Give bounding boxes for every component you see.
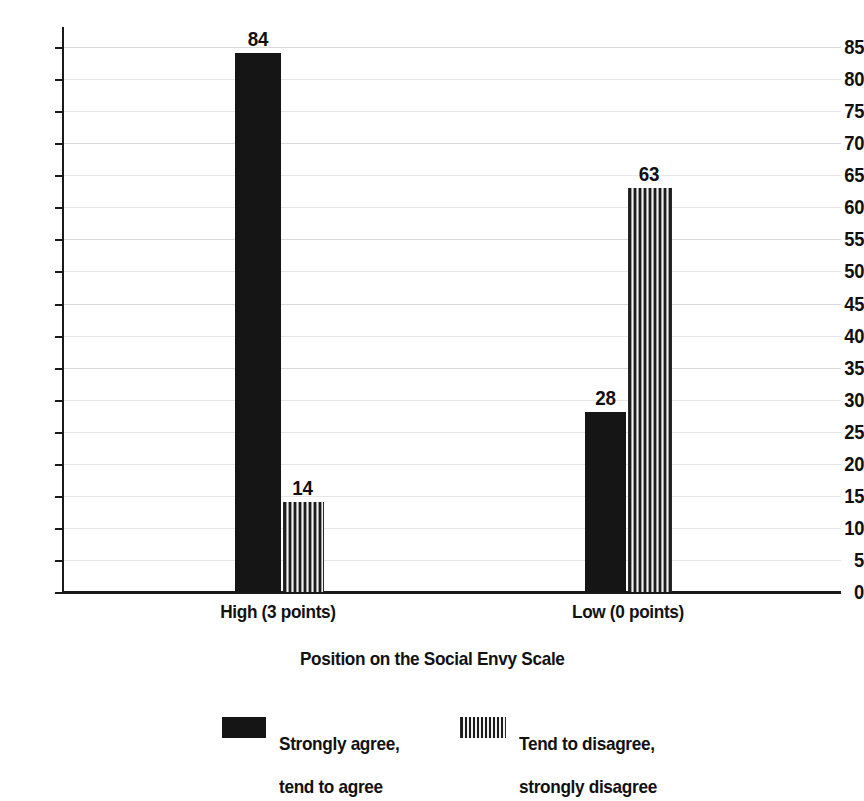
gridline-5 bbox=[64, 560, 841, 561]
y-axis-label-0: 0 bbox=[820, 581, 864, 604]
y-axis-label-20: 20 bbox=[820, 453, 864, 476]
bar-high-strongly-agree bbox=[235, 53, 281, 592]
y-tick-65 bbox=[55, 175, 64, 177]
y-tick-5 bbox=[55, 560, 64, 562]
y-tick-75 bbox=[55, 111, 64, 113]
bar-value-high-agree: 84 bbox=[236, 28, 279, 51]
gridline-15 bbox=[64, 496, 841, 497]
legend-item-agree: Strongly agree, tend to agree bbox=[222, 712, 408, 801]
y-axis-label-60: 60 bbox=[820, 196, 864, 219]
gridline-50 bbox=[64, 271, 841, 272]
y-tick-20 bbox=[55, 464, 64, 466]
x-axis-title: Position on the Social Envy Scale bbox=[0, 648, 864, 670]
y-tick-60 bbox=[55, 207, 64, 209]
y-tick-0 bbox=[55, 592, 64, 594]
legend-item-disagree: Tend to disagree, strongly disagree bbox=[460, 712, 667, 801]
gridline-85 bbox=[64, 47, 841, 48]
legend-label-disagree-line2: strongly disagree bbox=[519, 776, 657, 797]
y-axis-label-35: 35 bbox=[820, 357, 864, 380]
gridline-45 bbox=[64, 304, 841, 305]
legend-label-agree: Strongly agree, tend to agree bbox=[279, 712, 408, 801]
x-axis-category-high: High (3 points) bbox=[166, 601, 389, 623]
y-axis-label-30: 30 bbox=[820, 389, 864, 412]
y-axis-label-70: 70 bbox=[820, 132, 864, 155]
y-tick-80 bbox=[55, 79, 64, 81]
y-axis-label-25: 25 bbox=[820, 421, 864, 444]
y-axis-label-50: 50 bbox=[820, 260, 864, 283]
chart-legend: Strongly agree, tend to agree Tend to di… bbox=[0, 712, 864, 768]
y-tick-55 bbox=[55, 239, 64, 241]
gridline-55 bbox=[64, 239, 841, 240]
y-axis-label-10: 10 bbox=[820, 517, 864, 540]
y-tick-25 bbox=[55, 432, 64, 434]
bar-low-strongly-agree bbox=[585, 412, 626, 592]
y-axis-label-85: 85 bbox=[820, 36, 864, 59]
gridline-30 bbox=[64, 400, 841, 401]
y-axis-label-40: 40 bbox=[820, 325, 864, 348]
gridline-10 bbox=[64, 528, 841, 529]
gridline-40 bbox=[64, 336, 841, 337]
y-axis-label-75: 75 bbox=[820, 100, 864, 123]
legend-label-disagree-line1: Tend to disagree, bbox=[519, 733, 657, 754]
y-axis-label-80: 80 bbox=[820, 68, 864, 91]
y-axis-label-15: 15 bbox=[820, 485, 864, 508]
bar-high-tend-disagree bbox=[283, 502, 324, 592]
y-axis-label-65: 65 bbox=[820, 164, 864, 187]
bar-value-low-disagree: 63 bbox=[629, 163, 668, 186]
gridline-70 bbox=[64, 143, 841, 144]
y-tick-10 bbox=[55, 528, 64, 530]
y-tick-45 bbox=[55, 304, 64, 306]
gridline-35 bbox=[64, 368, 841, 369]
y-tick-30 bbox=[55, 400, 64, 402]
y-axis-label-5: 5 bbox=[820, 549, 864, 572]
y-tick-85 bbox=[55, 47, 64, 49]
y-axis-label-55: 55 bbox=[820, 228, 864, 251]
gridline-60 bbox=[64, 207, 841, 208]
y-axis-label-45: 45 bbox=[820, 293, 864, 316]
y-tick-15 bbox=[55, 496, 64, 498]
legend-swatch-solid-icon bbox=[222, 717, 266, 738]
y-tick-50 bbox=[55, 271, 64, 273]
gridline-75 bbox=[64, 111, 841, 112]
y-tick-40 bbox=[55, 336, 64, 338]
gridline-65 bbox=[64, 175, 841, 176]
gridline-25 bbox=[64, 432, 841, 433]
y-tick-70 bbox=[55, 143, 64, 145]
legend-label-disagree: Tend to disagree, strongly disagree bbox=[519, 712, 667, 801]
y-tick-35 bbox=[55, 368, 64, 370]
x-axis-title-text: Position on the Social Envy Scale bbox=[300, 648, 565, 670]
bar-value-high-disagree: 14 bbox=[284, 477, 321, 500]
bar-low-tend-disagree bbox=[628, 188, 672, 592]
x-axis-category-low: Low (0 points) bbox=[516, 601, 739, 623]
legend-label-agree-line1: Strongly agree, bbox=[279, 733, 399, 754]
legend-swatch-hatch-icon bbox=[460, 717, 506, 738]
gridline-80 bbox=[64, 79, 841, 80]
bar-value-low-agree: 28 bbox=[586, 387, 625, 410]
legend-label-agree-line2: tend to agree bbox=[279, 776, 399, 797]
x-axis-line bbox=[62, 591, 841, 594]
gridline-20 bbox=[64, 464, 841, 465]
